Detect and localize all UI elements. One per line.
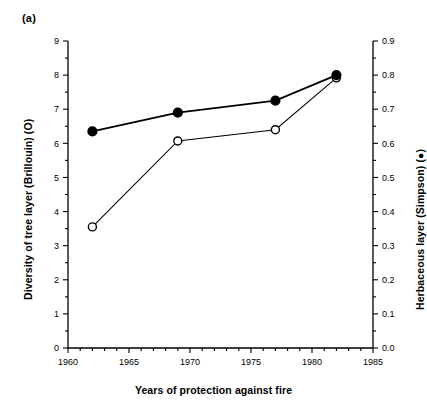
y-axis-right-tick-label: 0.3 (382, 241, 395, 251)
y-axis-left-tick-label: 4 (54, 207, 59, 217)
y-axis-left-tick-label: 5 (54, 173, 59, 183)
y-axis-left-tick-label: 2 (54, 275, 59, 285)
filled-circle-marker (332, 71, 341, 80)
y-axis-right-tick-label: 0.4 (382, 207, 395, 217)
x-axis: 196019651970197519801985 (58, 348, 383, 367)
chart-plot-area: 0123456789 0.00.10.20.30.40.50.60.70.80.… (0, 0, 427, 419)
open-circle-marker (271, 126, 279, 134)
x-axis-tick-label: 1960 (58, 357, 78, 367)
y-axis-right-tick-label: 0.1 (382, 309, 395, 319)
y-axis-right-tick-label: 0.9 (382, 36, 395, 46)
figure-panel: (a) Diversity of tree layer (Brillouin) … (0, 0, 427, 419)
y-axis-right-tick-label: 0.5 (382, 173, 395, 183)
open-circle-marker (88, 223, 96, 231)
filled-circle-marker (173, 108, 182, 117)
series-line-1 (92, 75, 336, 131)
filled-circle-marker (271, 96, 280, 105)
filled-circle-marker (88, 127, 97, 136)
open-circle-marker (174, 137, 182, 145)
x-axis-tick-label: 1980 (302, 357, 322, 367)
y-axis-right-tick-label: 0.7 (382, 104, 395, 114)
y-axis-right-tick-label: 0.2 (382, 275, 395, 285)
y-axis-left-tick-label: 1 (54, 309, 59, 319)
y-axis-right: 0.00.10.20.30.40.50.60.70.80.9 (373, 36, 395, 353)
x-axis-tick-label: 1985 (363, 357, 383, 367)
x-axis-tick-label: 1970 (180, 357, 200, 367)
y-axis-right-tick-label: 0.8 (382, 70, 395, 80)
x-axis-tick-label: 1975 (241, 357, 261, 367)
data-series-group (88, 71, 341, 231)
y-axis-left-tick-label: 7 (54, 104, 59, 114)
y-axis-left-tick-label: 3 (54, 241, 59, 251)
y-axis-left-tick-label: 6 (54, 139, 59, 149)
y-axis-right-tick-label: 0.0 (382, 343, 395, 353)
y-axis-left-tick-label: 0 (54, 343, 59, 353)
series-line-0 (92, 78, 336, 227)
y-axis-left: 0123456789 (54, 36, 68, 353)
y-axis-left-tick-label: 9 (54, 36, 59, 46)
y-axis-left-tick-label: 8 (54, 70, 59, 80)
x-axis-tick-label: 1965 (119, 357, 139, 367)
y-axis-right-tick-label: 0.6 (382, 139, 395, 149)
